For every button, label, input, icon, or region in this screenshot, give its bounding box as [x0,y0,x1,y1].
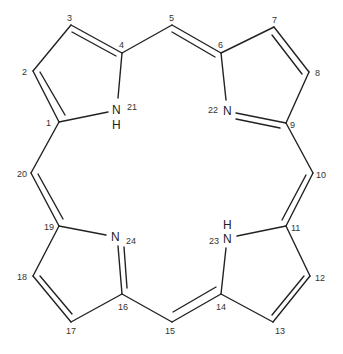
bond-1-2 [33,71,59,122]
locant-7: 7 [272,15,277,25]
bond-14-15-inner [173,287,216,312]
meso-bridge-10 [282,123,313,226]
bond-19-20-inner [38,174,63,219]
bond-N23-11 [237,226,286,236]
locant-16: 16 [118,302,128,312]
meso-bridge-20 [31,122,63,226]
nitrogen-24: N [111,230,120,244]
bond-6-7 [221,27,274,53]
bond-17-18 [33,276,71,322]
bond-18-19 [33,226,59,276]
locant-11: 11 [291,223,300,233]
bond-5-6 [172,25,221,53]
locant-15: 15 [165,326,175,336]
bond-3-4 [71,25,122,53]
locant-5: 5 [169,13,174,23]
bond-8-9 [286,72,309,123]
bond-14-N23 [221,248,226,294]
bond-N22-6 [221,53,226,100]
bond-4-5 [122,25,172,53]
bond-13-14 [221,294,273,322]
bond-17-18-inner [40,276,72,314]
bond-9-N22 [236,113,286,123]
pyrrole-ring-b [221,27,309,128]
hydrogen-21: H [112,118,121,132]
bond-5-6-inner [172,32,215,57]
bond-10-11 [286,173,313,226]
locant-2: 2 [22,67,27,77]
locant-3: 3 [67,13,72,23]
locant-22: 22 [208,105,218,115]
locant-24: 24 [126,236,136,246]
meso-bridge-15 [122,287,221,322]
bond-16-17 [71,294,122,322]
locant-12: 12 [315,273,325,283]
bond-12-13 [273,276,310,322]
locant-23: 23 [209,236,219,246]
bond-7-8-inner [272,35,302,74]
bond-19-20 [31,173,59,226]
bond-4-N21 [118,53,122,98]
hydrogen-23: H [223,218,232,232]
locant-20: 20 [17,169,27,179]
pyrrole-ring-c [221,226,310,322]
locant-14: 14 [216,302,226,312]
locant-18: 18 [17,272,27,282]
locant-19: 19 [44,222,54,232]
locant-21: 21 [127,102,137,112]
bond-7-8 [274,27,309,72]
locant-17: 17 [66,326,76,336]
bond-3-4-inner [72,32,116,56]
locant-8: 8 [315,68,320,78]
bond-11-12 [286,226,310,276]
meso-bridge-5 [122,25,221,57]
bond-9-10 [286,123,313,173]
locant-6: 6 [218,40,223,50]
bond-16-N24-inner [124,247,127,288]
bond-N21-1 [59,112,108,122]
locant-13: 13 [275,326,285,336]
bond-20-1 [31,122,59,173]
nitrogen-23: N [223,232,232,246]
porphyrin-structure: N H N N H N 1 2 3 4 5 6 7 8 9 10 11 12 1… [0,0,343,354]
bond-19-N24 [59,226,106,235]
bond-10-11-inner [282,175,306,220]
nitrogen-22: N [223,104,232,118]
locant-10: 10 [316,170,326,180]
locant-9: 9 [290,120,295,130]
pyrrole-ring-a [33,25,122,122]
nitrogen-21: N [112,103,121,117]
bond-16-N24 [118,246,122,294]
locant-1: 1 [46,118,51,128]
locant-4: 4 [119,40,124,50]
bond-2-3 [33,25,71,71]
bond-12-13-inner [272,276,304,315]
bond-15-16 [122,294,172,322]
